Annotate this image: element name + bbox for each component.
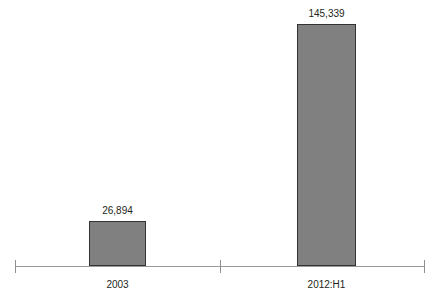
bar-2003[interactable] [89,221,146,266]
bar-2012-h1[interactable] [297,24,356,266]
bar-value-label: 26,894 [77,205,158,217]
x-axis-category-label: 2003 [77,279,158,291]
x-axis-tick [220,260,221,273]
plot-area: 26,894 145,339 2003 2012:H1 [0,0,435,301]
bar-chart: 26,894 145,339 2003 2012:H1 [0,0,435,301]
x-axis-tick [424,260,425,273]
x-axis-tick [15,260,16,273]
x-axis-category-label: 2012:H1 [286,279,367,291]
bar-value-label: 145,339 [286,8,367,20]
